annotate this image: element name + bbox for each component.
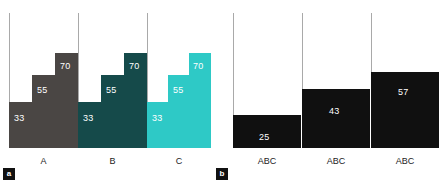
category-label-b-2: ABC [302, 157, 370, 166]
panel-letter-a: a [3, 168, 15, 180]
bar-a-B-step-33[interactable]: 33 [78, 102, 147, 148]
bar-value-label: 70 [193, 62, 203, 71]
category-label-b-1: ABC [233, 157, 301, 166]
bar-value-label: 43 [329, 107, 339, 116]
bar-a-A-step-33[interactable]: 33 [9, 102, 78, 148]
bar-value-label: 33 [152, 114, 162, 123]
bar-value-label: 55 [106, 86, 116, 95]
category-label-a-B: B [78, 157, 147, 166]
bar-value-label: 33 [83, 114, 93, 123]
panel-a: 33 55 70 33 55 70 33 55 70 A B C [0, 0, 212, 188]
category-label-b-3: ABC [371, 157, 439, 166]
bar-a-C-step-70[interactable]: 70 [189, 53, 211, 75]
bar-b-1[interactable]: 25 [233, 115, 301, 148]
bar-value-label: 55 [173, 86, 183, 95]
figure-root: 33 55 70 33 55 70 33 55 70 A B C [0, 0, 447, 188]
bar-value-label: 70 [129, 62, 139, 71]
bar-a-B-step-55[interactable]: 55 [101, 75, 147, 102]
bar-a-A-step-70[interactable]: 70 [55, 53, 78, 75]
panel-b: 25 43 57 ABC ABC ABC b [212, 0, 447, 188]
panel-letter-b: b [216, 168, 228, 180]
bar-value-label: 55 [37, 86, 47, 95]
bar-b-2[interactable]: 43 [302, 89, 370, 148]
bar-value-label: 33 [14, 114, 24, 123]
bar-a-C-step-33[interactable]: 33 [147, 102, 211, 148]
bar-value-label: 70 [60, 62, 70, 71]
bar-a-B-step-70[interactable]: 70 [124, 53, 147, 75]
bar-value-label: 57 [398, 88, 408, 97]
category-label-a-C: C [147, 157, 211, 166]
bar-a-C-step-55[interactable]: 55 [168, 75, 211, 102]
bar-value-label: 25 [259, 133, 269, 142]
category-label-a-A: A [9, 157, 78, 166]
bar-a-A-step-55[interactable]: 55 [32, 75, 78, 102]
bar-b-3[interactable]: 57 [371, 72, 439, 148]
